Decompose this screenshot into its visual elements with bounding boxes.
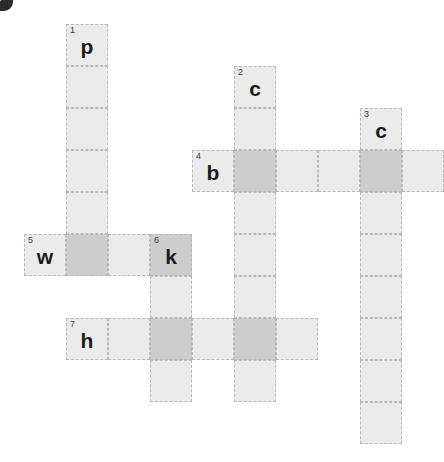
crossword-cell-clue-5[interactable]: 5w <box>24 234 66 276</box>
crossword-cell-clue-6[interactable]: 6k <box>150 234 192 276</box>
crossword-cell[interactable] <box>318 150 360 192</box>
crossword-cell-clue-4[interactable]: 4b <box>192 150 234 192</box>
crossword-cell[interactable] <box>234 276 276 318</box>
crossword-cell[interactable] <box>66 66 108 108</box>
crossword-cell[interactable] <box>192 318 234 360</box>
crossword-cell[interactable] <box>108 318 150 360</box>
crossword-cell[interactable] <box>360 192 402 234</box>
entry-letter: k <box>151 235 191 275</box>
crossword-cell[interactable] <box>360 234 402 276</box>
crossword-cell[interactable] <box>276 318 318 360</box>
crossword-cell[interactable] <box>150 360 192 402</box>
crossword-cell[interactable] <box>66 108 108 150</box>
crossword-cell[interactable] <box>150 318 192 360</box>
crossword-cell[interactable] <box>108 234 150 276</box>
entry-letter: b <box>193 151 233 191</box>
entry-letter: c <box>235 67 275 107</box>
entry-letter: c <box>361 109 401 149</box>
crossword-cell[interactable] <box>66 192 108 234</box>
crossword-cell[interactable] <box>402 150 444 192</box>
crossword-cell-clue-7[interactable]: 7h <box>66 318 108 360</box>
crossword-cell[interactable] <box>360 360 402 402</box>
entry-letter: p <box>67 25 107 65</box>
crossword-cell[interactable] <box>234 192 276 234</box>
crossword-cell[interactable] <box>66 234 108 276</box>
crossword-cell[interactable] <box>360 276 402 318</box>
crossword-cell[interactable] <box>234 360 276 402</box>
crossword-cell[interactable] <box>234 318 276 360</box>
crossword-cell[interactable] <box>234 108 276 150</box>
crossword-cell[interactable] <box>360 150 402 192</box>
crossword-cell[interactable] <box>234 234 276 276</box>
crossword-cell[interactable] <box>360 402 402 444</box>
crossword-cell[interactable] <box>234 150 276 192</box>
crossword-cell-clue-3[interactable]: 3c <box>360 108 402 150</box>
crossword-cell-clue-1[interactable]: 1p <box>66 24 108 66</box>
crossword-cell[interactable] <box>66 150 108 192</box>
crossword-cell-clue-2[interactable]: 2c <box>234 66 276 108</box>
crossword-cell[interactable] <box>150 276 192 318</box>
entry-letter: w <box>25 235 65 275</box>
crossword-cell[interactable] <box>360 318 402 360</box>
crossword-cell[interactable] <box>276 150 318 192</box>
entry-letter: h <box>67 319 107 359</box>
